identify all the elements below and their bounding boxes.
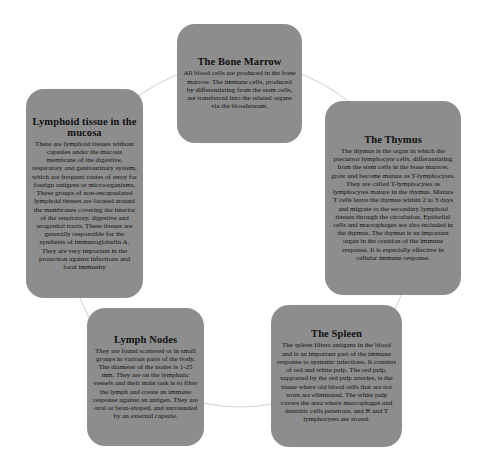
node-thymus: The Thymus The thymus is the organ in wh… [325, 101, 461, 295]
node-description: They are found scattered or in small gro… [93, 347, 198, 421]
node-title: The Spleen [277, 328, 396, 339]
node-description: All blood cells are produced in the bone… [183, 69, 296, 110]
node-title: The Bone Marrow [183, 56, 296, 67]
node-description: The spleen filters antigens in the blood… [277, 341, 396, 423]
node-title: The Thymus [331, 134, 455, 145]
node-description: There are lymphoid tissues without capsu… [32, 140, 137, 271]
node-bone-marrow: The Bone Marrow All blood cells are prod… [177, 24, 302, 143]
node-description: The thymus is the organ in which the pre… [331, 147, 455, 262]
node-title: Lymphoid tissue in the mucosa [32, 116, 137, 138]
node-lymph-nodes: Lymph Nodes They are found scattered or … [87, 308, 204, 446]
node-title: Lymph Nodes [93, 334, 198, 345]
node-lymphoid-mucosa: Lymphoid tissue in the mucosa There are … [26, 89, 143, 298]
node-spleen: The Spleen The spleen filters antigens i… [271, 305, 402, 447]
